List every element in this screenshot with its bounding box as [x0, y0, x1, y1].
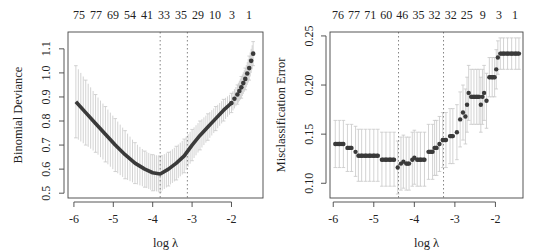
- nonzero-count-label: 29: [192, 8, 204, 22]
- x-axis: -6-5-4-3-2log λ: [328, 202, 500, 250]
- x-tick-label: -3: [450, 212, 460, 226]
- y-tick-label: 0.9: [39, 89, 53, 104]
- x-tick-label: -6: [328, 212, 338, 226]
- nonzero-count-label: 76: [332, 8, 344, 22]
- y-axis: 0.50.60.70.80.91.01.1Binomial Deviance: [11, 41, 64, 200]
- nonzero-count-label: 3: [229, 8, 235, 22]
- nonzero-count-label: 1: [246, 8, 252, 22]
- y-tick-label: 0.20: [302, 75, 316, 96]
- y-axis: 0.100.150.200.25Misclassification Error: [274, 25, 326, 193]
- y-tick-label: 0.5: [39, 186, 53, 201]
- cv-plots-figure: -6-5-4-3-2log λ0.50.60.70.80.91.01.1Bino…: [0, 0, 547, 252]
- y-tick-label: 0.15: [302, 124, 316, 145]
- x-axis: -6-5-4-3-2log λ: [69, 202, 237, 250]
- misclassification-error-panel: -6-5-4-3-2log λ0.100.150.200.25Misclassi…: [274, 8, 523, 250]
- x-axis-title: log λ: [414, 236, 439, 250]
- x-tick-label: -4: [148, 212, 158, 226]
- x-tick-label: -6: [69, 212, 79, 226]
- x-tick-label: -4: [409, 212, 419, 226]
- nonzero-count-label: 10: [209, 8, 221, 22]
- nonzero-count-label: 69: [107, 8, 119, 22]
- top-axis-labels: 75776954413335291031: [73, 8, 252, 22]
- top-axis-labels: 767771604635323225931: [332, 8, 518, 22]
- binomial-deviance-panel: -6-5-4-3-2log λ0.50.60.70.80.91.01.1Bino…: [11, 8, 263, 250]
- nonzero-count-label: 35: [412, 8, 424, 22]
- nonzero-count-label: 35: [175, 8, 187, 22]
- y-tick-label: 0.6: [39, 162, 53, 177]
- x-tick-label: -2: [226, 212, 236, 226]
- error-bars: [333, 38, 520, 194]
- plot-frame: [330, 32, 523, 198]
- y-tick-label: 0.10: [302, 173, 316, 194]
- nonzero-count-label: 77: [90, 8, 102, 22]
- nonzero-count-label: 3: [496, 8, 502, 22]
- nonzero-count-label: 54: [124, 8, 136, 22]
- x-tick-label: -2: [490, 212, 500, 226]
- x-tick-label: -5: [369, 212, 379, 226]
- nonzero-count-label: 32: [445, 8, 457, 22]
- nonzero-count-label: 25: [461, 8, 473, 22]
- nonzero-count-label: 60: [380, 8, 392, 22]
- nonzero-count-label: 75: [73, 8, 85, 22]
- y-tick-label: 0.7: [39, 138, 53, 153]
- nonzero-count-label: 77: [348, 8, 360, 22]
- y-tick-label: 0.25: [302, 25, 316, 46]
- y-axis-title: Binomial Deviance: [11, 66, 25, 163]
- y-tick-label: 1.0: [39, 65, 53, 80]
- nonzero-count-label: 46: [396, 8, 408, 22]
- nonzero-count-label: 71: [364, 8, 376, 22]
- nonzero-count-label: 9: [480, 8, 486, 22]
- x-tick-label: -5: [108, 212, 118, 226]
- nonzero-count-label: 41: [141, 8, 153, 22]
- nonzero-count-label: 1: [512, 8, 518, 22]
- x-tick-label: -3: [187, 212, 197, 226]
- y-tick-label: 0.8: [39, 114, 53, 129]
- y-axis-title: Misclassification Error: [274, 57, 288, 173]
- plot-frame: [68, 32, 263, 198]
- y-tick-label: 1.1: [39, 41, 53, 56]
- nonzero-count-label: 32: [429, 8, 441, 22]
- nonzero-count-label: 33: [158, 8, 170, 22]
- x-axis-title: log λ: [153, 236, 178, 250]
